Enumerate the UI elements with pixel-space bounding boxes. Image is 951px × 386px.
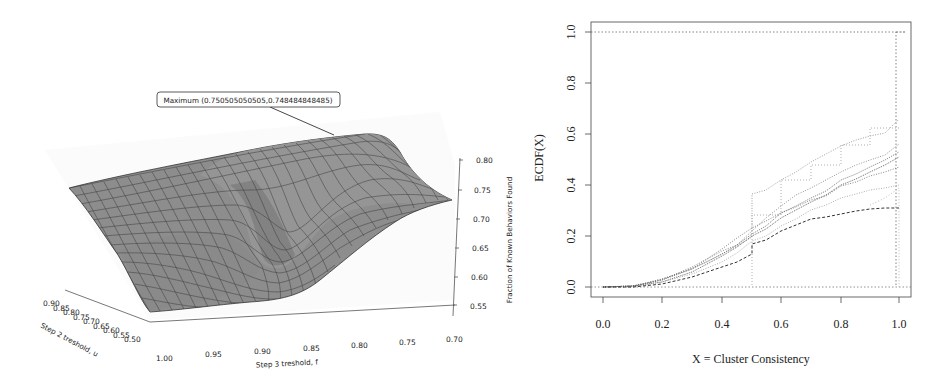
y-axis-label: Step 2 treshold, u	[39, 321, 100, 359]
ecdf-line	[870, 188, 899, 287]
x-axis	[603, 297, 899, 303]
ecdf-line	[603, 208, 899, 287]
z-tick-label: 0.65	[472, 244, 489, 253]
ecdf-line	[603, 185, 899, 287]
x-tick-label: 0.70	[446, 335, 463, 344]
y-tick-label: 0.50	[124, 335, 141, 344]
y-tick-label: 0.2	[564, 229, 578, 244]
z-tick-label: 0.75	[474, 186, 491, 195]
ecdf-line	[603, 152, 899, 287]
z-tick-label: 0.70	[473, 215, 490, 224]
z-axis: 0.80 0.75 0.70 0.65 0.60 0.55 Fraction o…	[453, 156, 514, 316]
plot-frame	[591, 22, 911, 297]
x-tick-label: 1.0	[892, 317, 907, 331]
x-tick-label: 0.0	[596, 317, 611, 331]
ecdf-line	[603, 157, 899, 287]
x-tick-label: 0.6	[774, 317, 789, 331]
x-tick-label: 1.00	[156, 354, 173, 363]
y-axis-label: ECDF(X)	[532, 134, 546, 181]
z-tick-label: 0.60	[471, 273, 488, 282]
y-tick-label: 0.4	[564, 178, 578, 193]
y-tick-label: 0.6	[564, 127, 578, 142]
ecdf-line	[603, 167, 899, 287]
x-tick-label: 0.75	[399, 338, 416, 347]
ecdf-series	[591, 32, 911, 287]
y-tick-label: 0.0	[564, 280, 578, 295]
surface-plot-3d: Maximum (0.750505050505,0.748484848485) …	[39, 92, 514, 370]
x-tick-label: 0.85	[303, 344, 320, 353]
x-tick-label: 0.8	[834, 317, 849, 331]
z-tick-label: 0.55	[470, 302, 487, 311]
ecdf-line	[752, 128, 899, 285]
annotation-text: Maximum (0.750505050505,0.748484848485)	[163, 96, 332, 105]
y-axis	[585, 32, 591, 287]
x-axis-label: Step 3 treshold, f	[256, 357, 319, 369]
ecdf-plot: 0.0 0.2 0.4 0.6 0.8 1.0 ECDF(X) 0.0 0.2 …	[532, 22, 911, 366]
x-tick-label: 0.95	[205, 350, 222, 359]
z-tick-label: 0.80	[476, 156, 493, 165]
ecdf-line	[603, 119, 899, 287]
ecdf-line	[603, 144, 899, 287]
x-axis-label: X = Cluster Consistency	[692, 352, 810, 366]
x-tick-label: 0.2	[655, 317, 670, 331]
x-tick-label: 0.80	[351, 341, 368, 350]
z-axis-label: Fraction of Known Behaviors Found	[505, 177, 514, 303]
x-tick-label: 0.90	[254, 347, 271, 356]
ecdf-line	[591, 32, 896, 287]
x-tick-label: 0.4	[715, 317, 730, 331]
y-tick-label: 1.0	[564, 25, 578, 40]
y-tick-label: 0.8	[564, 76, 578, 91]
y-axis-u: 0.90 0.85 0.80 0.75 0.70 0.65 0.60 0.55 …	[39, 290, 150, 359]
figure: Maximum (0.750505050505,0.748484848485) …	[0, 0, 951, 386]
